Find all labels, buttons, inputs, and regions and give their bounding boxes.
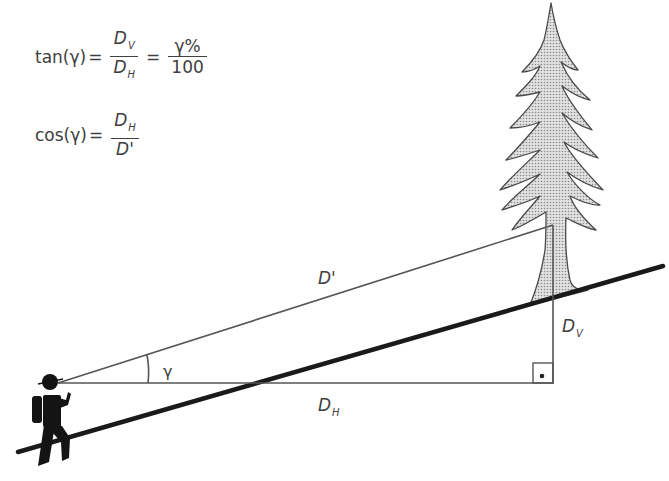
tree-icon	[500, 3, 603, 305]
angle-arc	[147, 355, 149, 383]
horizontal-distance-label: DH	[318, 395, 340, 418]
dv-sub: V	[576, 328, 583, 339]
angle-gamma-label: γ	[163, 362, 172, 381]
vertical-distance-label: DV	[562, 316, 583, 339]
line-of-sight	[58, 225, 553, 383]
right-angle-marker	[533, 363, 553, 383]
dh-base: D	[318, 395, 331, 415]
ground-slope-line	[18, 266, 663, 452]
dh-sub: H	[332, 407, 340, 418]
dv-base: D	[562, 316, 575, 336]
right-angle-dot	[540, 374, 545, 379]
tree-crown	[500, 3, 603, 305]
slope-distance-label: D'	[318, 268, 336, 288]
hiker-icon	[32, 374, 71, 466]
